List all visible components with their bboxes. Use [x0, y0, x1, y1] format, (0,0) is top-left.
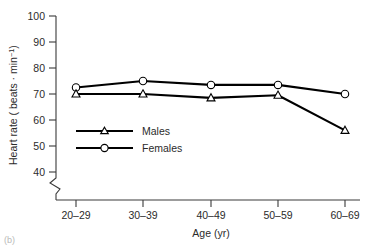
circle-icon	[341, 90, 348, 97]
legend-label-females: Females	[142, 142, 182, 154]
x-tick-marks	[76, 200, 345, 207]
chart-legend: Males Females	[76, 125, 182, 154]
circle-icon	[139, 77, 146, 84]
y-axis-break-zigzag	[50, 172, 60, 200]
circle-icon	[274, 81, 281, 88]
heart-rate-line-chart: 100 90 80 70 60 50 40 Heart rate ( beats…	[0, 0, 365, 245]
y-tick-labels: 100 90 80 70 60 50 40	[27, 10, 45, 178]
x-tick-labels: 20–29 30–39 40–49 50–59 60–69	[61, 209, 359, 221]
y-tick-marks	[49, 16, 56, 172]
series-males	[72, 90, 349, 134]
y-tick-label-80: 80	[33, 62, 45, 74]
legend-entry-males: Males	[76, 125, 170, 137]
y-tick-label-60: 60	[33, 114, 45, 126]
legend-label-males: Males	[142, 125, 170, 137]
panel-label: (b)	[4, 235, 15, 245]
y-axis-title-tail: )	[7, 45, 19, 49]
y-tick-label-90: 90	[33, 36, 45, 48]
x-tick-label-20-29: 20–29	[61, 209, 90, 221]
legend-entry-females: Females	[76, 142, 182, 154]
x-tick-label-30-39: 30–39	[128, 209, 157, 221]
y-axis-title: Heart rate ( beats · min−1)	[7, 45, 20, 165]
x-axis-title: Age (yr)	[192, 227, 229, 239]
chart-figure: 100 90 80 70 60 50 40 Heart rate ( beats…	[0, 0, 365, 245]
y-axis-title-superscript: −1	[7, 49, 16, 57]
y-tick-label-70: 70	[33, 88, 45, 100]
x-tick-label-40-49: 40–49	[196, 209, 225, 221]
x-tick-label-50-59: 50–59	[263, 209, 292, 221]
y-tick-label-100: 100	[27, 10, 45, 22]
y-tick-label-40: 40	[33, 166, 45, 178]
circle-icon	[101, 144, 108, 151]
y-tick-label-50: 50	[33, 140, 45, 152]
circle-icon	[207, 81, 214, 88]
x-tick-label-60-69: 60–69	[330, 209, 359, 221]
y-axis-title-main: Heart rate ( beats · min	[7, 57, 19, 165]
